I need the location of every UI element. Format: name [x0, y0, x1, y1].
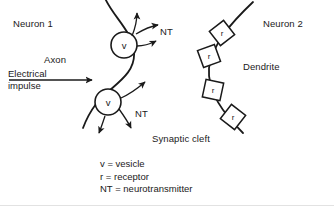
nt-release-arrow-up-3 — [137, 41, 156, 46]
legend-item-neurotransmitter: NT = neurotransmitter — [100, 183, 193, 196]
nt-release-arrow-down-3 — [99, 116, 105, 133]
label-axon: Axon — [44, 54, 66, 66]
receptor-1-label: r — [221, 29, 224, 38]
nt-release-arrow-down-1 — [121, 82, 145, 98]
label-neuron-2: Neuron 2 — [263, 18, 303, 30]
label-impulse: impulse — [8, 80, 47, 92]
nt-release-arrow-down-2 — [119, 109, 131, 128]
label-electrical: Electrical — [8, 68, 47, 80]
electrical-impulse-label-block: Electrical impulse — [8, 68, 47, 92]
legend-item-vesicle: v = vesicle — [100, 158, 193, 171]
label-dendrite: Dendrite — [243, 61, 280, 73]
vesicle-upper-label: v — [122, 40, 127, 51]
legend: v = vesicle r = receptor NT = neurotrans… — [100, 158, 193, 196]
receptor-3-label: r — [212, 86, 215, 95]
receptor-4-label: r — [232, 113, 235, 122]
bottom-divider — [0, 205, 334, 206]
vesicle-lower-label: v — [106, 97, 111, 108]
legend-item-receptor: r = receptor — [100, 171, 193, 184]
label-neurotransmitter-top: NT — [160, 26, 173, 38]
neuron-synapse-diagram: v v r r r r Neuron 1 Neuro — [0, 0, 334, 210]
receptor-2-label: r — [208, 52, 211, 61]
label-synaptic-cleft: Synaptic cleft — [152, 133, 210, 145]
label-neurotransmitter-bottom: NT — [135, 108, 148, 120]
nt-release-arrow-up-2 — [136, 25, 158, 34]
label-neuron-1: Neuron 1 — [13, 18, 53, 30]
nt-release-arrow-up-1 — [132, 13, 137, 36]
